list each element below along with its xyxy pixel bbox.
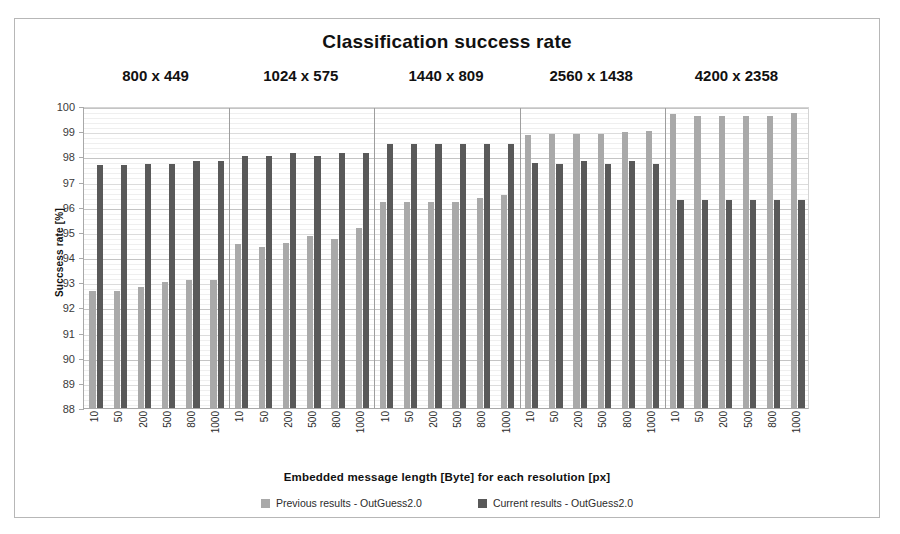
bar: [411, 144, 417, 408]
bar: [193, 161, 199, 408]
y-tick-label: 99: [41, 126, 75, 138]
bar: [242, 156, 248, 408]
y-tick-mark: [79, 283, 84, 284]
bar: [363, 153, 369, 408]
bar: [622, 132, 628, 408]
bar: [235, 244, 241, 408]
bar: [646, 131, 652, 408]
x-tick-label: 50: [114, 411, 124, 422]
x-tick-label: 200: [719, 411, 729, 428]
bar: [380, 202, 386, 408]
bar: [605, 164, 611, 408]
x-tick-label: 200: [139, 411, 149, 428]
bar: [670, 114, 676, 408]
y-tick-label: 96: [41, 202, 75, 214]
x-tick-label: 800: [623, 411, 633, 428]
bar: [477, 198, 483, 408]
x-tick-label: 10: [381, 411, 391, 422]
bar: [169, 164, 175, 408]
bar: [452, 202, 458, 408]
bar: [162, 282, 168, 408]
bar: [581, 161, 587, 408]
bar: [653, 164, 659, 408]
y-tick-label: 89: [41, 378, 75, 390]
x-tick-label: 500: [744, 411, 754, 428]
chart-figure: Classification success rate 800 x 449102…: [14, 18, 880, 518]
plot-area: [83, 107, 809, 409]
x-tick-label: 500: [308, 411, 318, 428]
x-tick-label: 800: [332, 411, 342, 428]
x-tick-label: 200: [574, 411, 584, 428]
x-tick-label: 50: [550, 411, 560, 422]
x-tick-label: 10: [235, 411, 245, 422]
x-tick-label: 1000: [211, 411, 221, 433]
x-tick-label: 1000: [356, 411, 366, 433]
y-tick-label: 100: [41, 101, 75, 113]
group-separator: [229, 108, 230, 408]
x-tick-label: 500: [163, 411, 173, 428]
bar: [501, 195, 507, 408]
bar: [259, 247, 265, 408]
y-tick-mark: [79, 233, 84, 234]
bar: [138, 287, 144, 408]
bar: [484, 144, 490, 408]
bar: [97, 165, 103, 408]
y-tick-mark: [79, 183, 84, 184]
x-tick-label: 10: [90, 411, 100, 422]
legend-label: Current results - OutGuess2.0: [493, 497, 633, 509]
x-tick-label: 500: [453, 411, 463, 428]
x-tick-label: 1000: [647, 411, 657, 433]
bar: [743, 116, 749, 408]
y-tick-label: 88: [41, 403, 75, 415]
x-tick-label: 50: [405, 411, 415, 422]
x-tick-label: 800: [768, 411, 778, 428]
y-tick-label: 92: [41, 302, 75, 314]
bar: [314, 156, 320, 408]
bar: [307, 236, 313, 408]
bar: [435, 144, 441, 408]
y-tick-label: 90: [41, 353, 75, 365]
y-tick-mark: [79, 384, 84, 385]
y-tick-label: 93: [41, 277, 75, 289]
bar: [387, 144, 393, 408]
y-tick-mark: [79, 208, 84, 209]
bar: [798, 200, 804, 408]
bar: [525, 135, 531, 408]
bar: [573, 134, 579, 408]
y-tick-mark: [79, 107, 84, 108]
bar: [508, 144, 514, 408]
x-axis-title: Embedded message length [Byte] for each …: [15, 471, 879, 483]
bar: [210, 280, 216, 408]
group-separator: [665, 108, 666, 408]
legend-swatch-icon: [478, 499, 487, 508]
minor-gridline: [84, 113, 808, 114]
y-tick-label: 91: [41, 328, 75, 340]
x-tick-label: 10: [526, 411, 536, 422]
y-tick-label: 98: [41, 151, 75, 163]
y-tick-mark: [79, 132, 84, 133]
bar: [629, 161, 635, 408]
y-tick-mark: [79, 409, 84, 410]
y-tick-mark: [79, 258, 84, 259]
bar: [89, 291, 95, 408]
x-tick-label: 200: [429, 411, 439, 428]
group-separator: [520, 108, 521, 408]
y-tick-mark: [79, 308, 84, 309]
legend-item[interactable]: Current results - OutGuess2.0: [478, 497, 633, 509]
bar: [266, 156, 272, 408]
x-tick-label: 50: [260, 411, 270, 422]
bar: [339, 153, 345, 408]
bar: [428, 202, 434, 408]
bar: [532, 163, 538, 408]
y-tick-label: 95: [41, 227, 75, 239]
bar: [549, 134, 555, 408]
x-tick-label: 10: [671, 411, 681, 422]
x-tick-label: 1000: [792, 411, 802, 433]
bar: [719, 116, 725, 408]
x-tick-label: 800: [187, 411, 197, 428]
bar: [290, 153, 296, 408]
x-tick-label: 500: [598, 411, 608, 428]
bar: [702, 200, 708, 408]
legend-item[interactable]: Previous results - OutGuess2.0: [261, 497, 422, 509]
legend-label: Previous results - OutGuess2.0: [276, 497, 422, 509]
